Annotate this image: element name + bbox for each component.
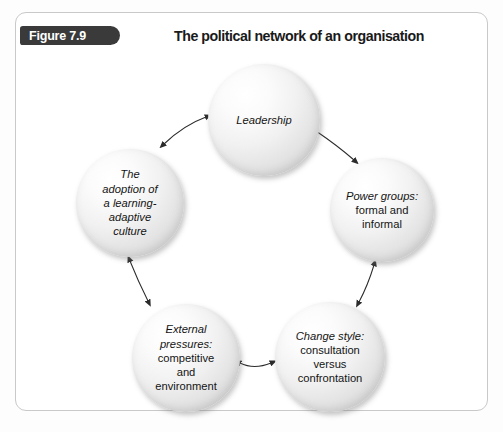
node-label-line: environment <box>138 379 234 393</box>
node-label-line: informal <box>336 217 428 231</box>
node-label-line: confrontation <box>281 371 378 385</box>
connector-power-groups-to-change-style <box>359 265 374 302</box>
node-label-line: adaptive <box>82 210 178 224</box>
node-label-line: culture <box>82 224 178 238</box>
connector-leadership-to-power-groups <box>316 131 354 160</box>
connector-external-pressures-to-adoption <box>130 261 148 301</box>
node-power-groups[interactable]: Power groups:formal andinformal <box>330 158 434 262</box>
node-change-style[interactable]: Change style:consultationversusconfronta… <box>275 302 385 412</box>
node-label-line: consultation <box>281 343 378 357</box>
node-label-line: Leadership <box>214 113 313 127</box>
node-change-style-label: Change style:consultationversusconfronta… <box>278 329 381 386</box>
node-label-line: Power groups: <box>336 189 428 203</box>
network-diagram: Leadership Power groups:formal andinform… <box>16 13 489 412</box>
node-label-line: The <box>82 167 178 181</box>
node-power-groups-label: Power groups:formal andinformal <box>333 189 431 232</box>
node-label-line: External <box>138 322 234 336</box>
connector-change-style-to-external-pressures <box>240 363 271 367</box>
node-label-line: adoption of <box>82 182 178 196</box>
node-label-line: competitive <box>138 351 234 365</box>
node-label-line: pressures: <box>138 337 234 351</box>
node-leadership-label: Leadership <box>211 113 316 127</box>
node-external-pressures-label: Externalpressures:competitiveandenvironm… <box>135 322 237 393</box>
node-label-line: formal and <box>336 203 428 217</box>
node-label-line: and <box>138 365 234 379</box>
node-adoption-culture[interactable]: Theadoption ofa learning-adaptiveculture <box>76 149 184 257</box>
connector-adoption-to-leadership <box>164 117 206 144</box>
node-adoption-culture-label: Theadoption ofa learning-adaptiveculture <box>79 167 181 238</box>
figure-panel: Figure 7.9 The political network of an o… <box>15 12 488 411</box>
node-external-pressures[interactable]: Externalpressures:competitiveandenvironm… <box>132 304 240 412</box>
node-leadership[interactable]: Leadership <box>208 64 320 176</box>
node-label-line: a learning- <box>82 196 178 210</box>
node-label-line: versus <box>281 357 378 371</box>
node-label-line: Change style: <box>281 329 378 343</box>
